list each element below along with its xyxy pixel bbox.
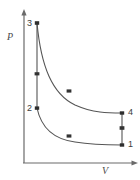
direction-markers-group	[35, 72, 125, 137]
state-point-label-4: 4	[128, 108, 133, 117]
state-point-markers-group	[35, 21, 124, 147]
state-point-marker-3	[35, 21, 39, 25]
axes-group	[21, 9, 138, 166]
state-point-marker-1	[120, 143, 124, 146]
state-point-marker-2	[35, 106, 39, 109]
isotherm-3-to-4-path	[37, 23, 122, 113]
direction-marker-isochore-4-1	[120, 126, 125, 130]
volume-axis-arrowhead	[132, 160, 139, 165]
isotherm-2-to-1-path	[37, 108, 122, 145]
pv-diagram-canvas	[0, 0, 140, 180]
direction-marker-isochore-3-2	[35, 72, 40, 75]
process-curves-group	[37, 23, 122, 145]
state-point-label-2: 2	[27, 104, 32, 113]
state-point-label-3: 3	[27, 19, 32, 28]
direction-marker-isotherm-3-4	[67, 89, 72, 92]
state-point-marker-4	[120, 111, 124, 114]
direction-marker-isotherm-2-1	[67, 134, 72, 137]
pressure-axis-label: P	[7, 32, 13, 42]
pv-diagram-figure: P V 3 2 4 1	[0, 0, 140, 180]
state-point-label-1: 1	[128, 140, 133, 149]
pressure-axis-arrowhead	[21, 9, 26, 16]
volume-axis-label: V	[102, 166, 108, 176]
